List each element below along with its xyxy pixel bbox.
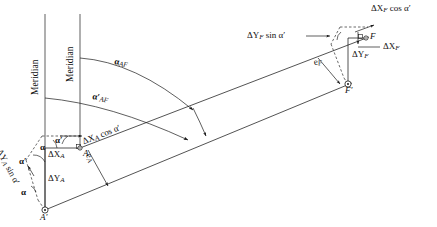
label-delta-XF: ΔXF bbox=[383, 42, 400, 52]
label-delta-XA: ΔXA bbox=[48, 150, 65, 160]
point-label-F-prime: F′ bbox=[345, 86, 352, 95]
traverse-line-upper bbox=[80, 37, 369, 148]
label-delta-YF-sin-alpha: ΔYF sin α′ bbox=[247, 31, 285, 41]
point-label-A-prime: A′ bbox=[40, 213, 47, 222]
label-delta-YF: ΔYF bbox=[352, 50, 369, 60]
meridian-label-right: Meridian bbox=[66, 46, 76, 82]
angle-label-alpha-A-prime: α bbox=[21, 188, 26, 197]
station-point-F-dot bbox=[365, 37, 366, 38]
arc-mid-strip bbox=[193, 108, 206, 136]
dashed-projection-F-left bbox=[331, 27, 340, 44]
station-point-A-prime-dot bbox=[44, 209, 46, 211]
point-label-F: F bbox=[370, 32, 376, 41]
label-eccentricity-eF: eF bbox=[313, 57, 323, 69]
arrow-delta-YA-sin bbox=[28, 166, 34, 176]
arc-alpha-at-A-left bbox=[33, 155, 45, 162]
angle-label-alpha-prime-A: α′ bbox=[55, 136, 63, 145]
arc-alpha-prime-at-A-upper bbox=[62, 136, 68, 144]
angle-label-alpha-AF: αAF bbox=[113, 57, 128, 69]
label-delta-XF-cos-alpha: ΔXF cos α′ bbox=[371, 4, 411, 14]
dashed-projection-A-lower bbox=[26, 160, 38, 200]
meridian-label-left: Meridian bbox=[31, 59, 41, 95]
label-delta-YA: ΔYA bbox=[48, 174, 65, 184]
angle-label-alpha-A: α bbox=[40, 143, 45, 152]
surveying-traverse-figure: Meridian Meridian αAF α′AF ΔXA cos α′ ΔY… bbox=[0, 0, 437, 227]
angle-label-alpha-left: α′ bbox=[19, 157, 27, 166]
arc-alpha-at-F bbox=[337, 32, 341, 40]
station-point-A-dot bbox=[79, 147, 80, 148]
